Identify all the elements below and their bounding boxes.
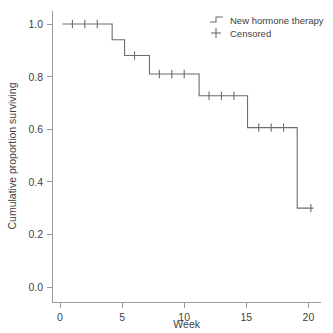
y-tick-label-4: 0.8 [28,71,43,83]
y-tick-label-5: 1.0 [28,18,43,30]
x-tick-label-0: 0 [57,311,63,323]
legend-label-0: New hormone therapy [230,15,324,26]
kaplan-meier-plot: 0.00.20.40.60.81.005101520WeekCumulative… [0,0,333,333]
x-tick-label-4: 20 [303,311,315,323]
y-tick-label-0: 0.0 [28,281,43,293]
chart-figure: 0.00.20.40.60.81.005101520WeekCumulative… [0,0,333,333]
x-axis-title: Week [173,318,200,330]
chart-legend: New hormone therapyCensored [210,15,324,39]
y-axis-title: Cumulative proportion surviving [6,82,18,229]
y-tick-label-3: 0.6 [28,123,43,135]
x-tick-label-1: 5 [119,311,125,323]
survival-step-curve [62,24,313,208]
legend-step-line-icon [210,17,223,22]
y-tick-label-1: 0.2 [28,228,43,240]
legend-label-1: Censored [230,28,271,39]
censored-marks-group [72,20,310,213]
y-tick-label-2: 0.4 [28,176,43,188]
x-tick-label-3: 15 [240,311,252,323]
